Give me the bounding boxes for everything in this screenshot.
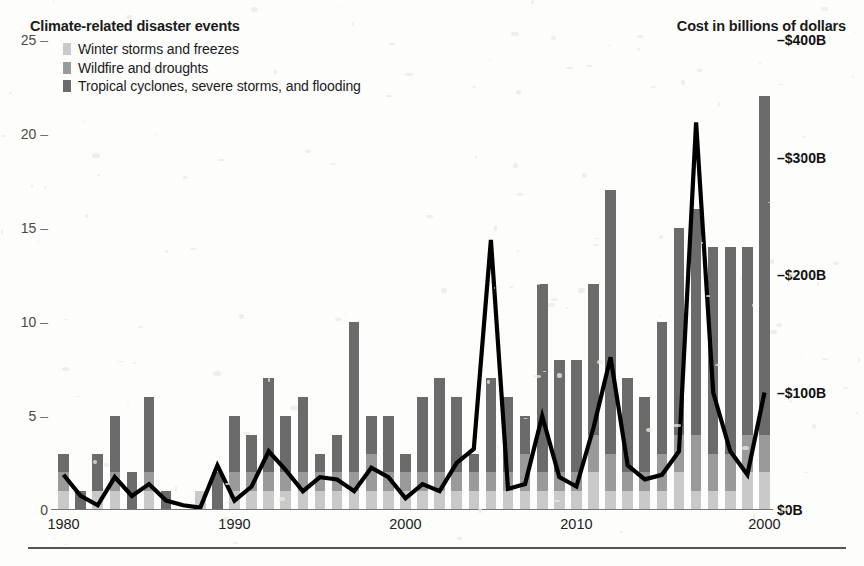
scan-artifact xyxy=(548,303,555,306)
plot-area: 25–20–15–10–5–0 –$400B–$300B–$200B–$100B… xyxy=(55,40,773,510)
y-axis-tick-left: 15– xyxy=(21,220,48,236)
scan-artifact xyxy=(340,6,343,7)
x-axis-baseline xyxy=(51,509,773,510)
scan-artifact xyxy=(233,542,238,544)
scan-artifact xyxy=(742,446,749,450)
scan-artifact xyxy=(274,70,277,74)
scan-artifact xyxy=(759,62,761,63)
scan-artifact xyxy=(586,65,593,67)
scan-artifact xyxy=(843,387,848,389)
scan-artifact xyxy=(659,235,663,238)
scan-artifact xyxy=(305,150,310,153)
scan-artifact xyxy=(22,27,23,30)
scan-artifact xyxy=(817,282,819,286)
scan-artifact xyxy=(812,424,817,429)
scan-artifact xyxy=(770,330,777,334)
scan-artifact xyxy=(511,32,518,36)
scan-artifact xyxy=(593,244,598,246)
scan-artifact xyxy=(224,517,227,522)
y-axis-tick-right: –$400B xyxy=(777,32,826,48)
scan-artifact xyxy=(789,400,793,403)
scan-artifact xyxy=(344,313,347,314)
x-axis-tick: 2000 xyxy=(389,516,421,532)
scan-artifact xyxy=(133,362,136,364)
y-axis-tick-left: 10– xyxy=(21,314,48,330)
scan-artifact xyxy=(770,259,774,263)
scan-artifact xyxy=(801,354,802,356)
scan-artifact xyxy=(681,80,685,85)
scan-artifact xyxy=(553,500,560,502)
scan-artifact xyxy=(53,0,55,3)
scan-artifact xyxy=(494,226,497,230)
y-axis-tick-left: 20– xyxy=(21,126,48,142)
scan-artifact xyxy=(779,84,782,85)
scan-artifact xyxy=(31,185,33,189)
scan-artifact xyxy=(776,323,782,327)
scan-artifact xyxy=(75,396,81,397)
scan-artifact xyxy=(578,288,585,293)
x-axis-tick: 2010 xyxy=(560,516,592,532)
scan-artifact xyxy=(1,135,6,137)
scan-artifact xyxy=(802,136,806,139)
scan-artifact xyxy=(426,215,433,218)
scan-artifact xyxy=(97,174,100,176)
scan-artifact xyxy=(852,76,855,77)
scan-artifact xyxy=(533,375,540,377)
scan-artifact xyxy=(1,230,3,235)
scan-artifact xyxy=(856,412,857,415)
chart-page: Climate-related disaster events Cost in … xyxy=(0,0,864,566)
scan-artifact xyxy=(517,193,523,196)
footer-rule xyxy=(28,547,846,549)
scan-artifact xyxy=(92,153,100,157)
scan-artifact xyxy=(697,69,702,72)
scan-artifact xyxy=(268,378,270,382)
scan-artifact xyxy=(557,373,562,377)
scan-artifact xyxy=(582,173,587,178)
scan-artifact xyxy=(583,516,586,517)
scan-artifact xyxy=(531,0,534,4)
scan-artifact xyxy=(597,360,603,364)
scan-artifact xyxy=(706,295,711,297)
scan-artifact xyxy=(646,428,652,432)
scan-artifact xyxy=(833,262,839,265)
scan-artifact xyxy=(165,250,168,253)
scan-artifact xyxy=(64,544,66,546)
scan-artifact xyxy=(478,508,482,513)
scan-artifact xyxy=(53,538,56,540)
x-axis-tick: 1980 xyxy=(47,516,79,532)
scan-artifact xyxy=(620,531,623,533)
y-axis-tick-left: 25– xyxy=(21,32,48,48)
scan-artifact xyxy=(38,239,40,242)
scan-artifact xyxy=(225,483,230,486)
scan-artifact xyxy=(637,35,642,38)
scan-artifact xyxy=(822,358,828,359)
scan-artifact xyxy=(44,186,46,189)
scan-artifact xyxy=(701,242,703,244)
scan-artifact xyxy=(457,537,462,540)
scan-artifact xyxy=(405,73,412,76)
scan-artifact xyxy=(516,90,521,95)
scan-artifact xyxy=(718,102,720,107)
scan-artifact xyxy=(175,486,176,490)
scan-artifact xyxy=(740,277,742,281)
scan-artifact xyxy=(517,250,519,252)
scan-artifact xyxy=(781,508,789,511)
scan-artifact xyxy=(673,424,680,426)
scan-artifact xyxy=(566,67,573,68)
scan-artifact xyxy=(213,371,221,376)
scan-artifact xyxy=(821,7,828,11)
scan-artifact xyxy=(551,36,556,40)
page-title: Climate-related disaster events xyxy=(30,18,240,34)
y-axis-tick-right: –$100B xyxy=(777,385,826,401)
scan-artifact xyxy=(854,32,858,33)
scan-artifact xyxy=(9,92,12,94)
scan-artifact xyxy=(239,314,244,319)
y-axis-tick-right: –$200B xyxy=(777,267,826,283)
scan-artifact xyxy=(804,472,809,473)
scan-artifact xyxy=(290,406,297,410)
scan-artifact xyxy=(789,272,796,277)
scan-artifact xyxy=(279,497,285,500)
scan-artifact xyxy=(251,7,258,12)
scan-artifact xyxy=(566,307,568,309)
scan-artifact xyxy=(352,22,355,26)
